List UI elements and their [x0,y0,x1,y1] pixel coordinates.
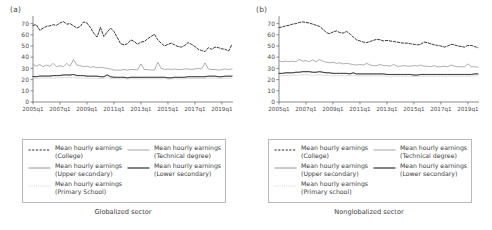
legend-label-line1: Mean hourly earnings [301,144,368,152]
legend-item-label: Mean hourly earnings(Primary school) [301,180,368,197]
legend-item: Mean hourly earnings(College) [274,144,374,161]
svg-text:50: 50 [21,42,29,49]
panel-a-label: (a) [10,5,21,14]
legend-item: Mean hourly earnings(Technical degree) [127,144,225,161]
panel-a-legend-right-column: Mean hourly earnings(Technical degree)Me… [127,144,225,180]
svg-text:2009q1: 2009q1 [76,106,98,113]
svg-text:20: 20 [21,76,29,83]
series-line [279,75,478,77]
legend-label-line2: (Upper secondary) [301,170,368,178]
svg-text:50: 50 [267,42,275,49]
legend-item: Mean hourly earnings(Primary school) [274,180,374,197]
svg-text:40: 40 [267,53,275,60]
panel-a-legend-left-column: Mean hourly earnings(College)Mean hourly… [28,144,128,198]
svg-text:70: 70 [267,20,275,27]
svg-text:40: 40 [21,53,29,60]
panel-b-legend-right-column: Mean hourly earnings(Technical degree)Me… [373,144,471,180]
svg-text:30: 30 [267,65,275,72]
panel-a-legend: Mean hourly earnings(College)Mean hourly… [22,139,226,203]
legend-item: Mean hourly earnings(Lower secondary) [127,162,225,179]
svg-text:10: 10 [267,87,275,94]
legend-label-line1: Mean hourly earnings [55,144,122,152]
panel-a-svg: 0102030405060702005q12007q12009q12011q12… [16,14,234,120]
legend-item: Mean hourly earnings(Lower secondary) [373,162,471,179]
legend-line-swatch-icon [274,181,297,197]
legend-line-swatch-icon [28,181,51,197]
legend-label-line2: (Lower secondary) [400,170,467,178]
legend-label-line1: Mean hourly earnings [55,180,122,188]
legend-item-label: Mean hourly earnings(College) [55,144,122,161]
svg-text:2009q1: 2009q1 [322,106,344,113]
panel-b-legend-left-column: Mean hourly earnings(College)Mean hourly… [274,144,374,198]
svg-text:70: 70 [21,20,29,27]
svg-text:2005q1: 2005q1 [268,106,290,113]
svg-text:60: 60 [267,31,275,38]
legend-label-line2: (Technical degree) [154,152,221,160]
legend-label-line1: Mean hourly earnings [301,180,368,188]
legend-line-swatch-icon [127,163,150,179]
legend-label-line1: Mean hourly earnings [55,162,122,170]
legend-line-swatch-icon [274,163,297,179]
legend-line-swatch-icon [373,163,396,179]
legend-item-label: Mean hourly earnings(Lower secondary) [154,162,221,179]
legend-item-label: Mean hourly earnings(Lower secondary) [400,162,467,179]
legend-line-swatch-icon [28,163,51,179]
legend-label-line2: (Technical degree) [400,152,467,160]
legend-label-line2: (Lower secondary) [154,170,221,178]
panel-b-caption: Nonglobalized sector [246,208,492,216]
panel-a-plot: 0102030405060702005q12007q12009q12011q12… [16,14,234,120]
legend-line-swatch-icon [127,145,150,161]
legend-item: Mean hourly earnings(College) [28,144,128,161]
svg-text:2019q1: 2019q1 [211,106,233,113]
legend-item-label: Mean hourly earnings(Primary School) [55,180,122,197]
svg-text:60: 60 [21,31,29,38]
svg-text:2013q1: 2013q1 [376,106,398,113]
svg-text:2015q1: 2015q1 [403,106,425,113]
series-line [33,59,232,70]
legend-label-line2: (College) [301,152,368,160]
panel-b-plot: 0102030405060702005q12007q12009q12011q12… [262,14,480,120]
svg-text:2015q1: 2015q1 [157,106,179,113]
panel-b-legend: Mean hourly earnings(College)Mean hourly… [268,139,472,203]
svg-text:2017q1: 2017q1 [184,106,206,113]
legend-item-label: Mean hourly earnings(Upper secondary) [55,162,122,179]
legend-label-line2: (Primary School) [55,188,122,196]
legend-line-swatch-icon [373,145,396,161]
svg-text:2007q1: 2007q1 [295,106,317,113]
legend-label-line1: Mean hourly earnings [154,144,221,152]
svg-text:2005q1: 2005q1 [22,106,44,113]
panel-b: (b) 0102030405060702005q12007q12009q1201… [246,0,492,230]
panel-b-svg: 0102030405060702005q12007q12009q12011q12… [262,14,480,120]
svg-text:10: 10 [21,87,29,94]
svg-text:2011q1: 2011q1 [349,106,371,113]
legend-item: Mean hourly earnings(Upper secondary) [274,162,374,179]
svg-text:30: 30 [21,65,29,72]
figure-container: (a) 0102030405060702005q12007q12009q1201… [0,0,492,230]
panel-a-caption: Globalized sector [0,208,246,216]
legend-line-swatch-icon [28,145,51,161]
svg-text:0: 0 [25,98,29,105]
legend-item-label: Mean hourly earnings(Technical degree) [154,144,221,161]
svg-text:2017q1: 2017q1 [430,106,452,113]
legend-item-label: Mean hourly earnings(College) [301,144,368,161]
svg-text:2019q1: 2019q1 [457,106,479,113]
svg-text:2007q1: 2007q1 [49,106,71,113]
series-line [279,59,478,67]
legend-item-label: Mean hourly earnings(Upper secondary) [301,162,368,179]
panel-a: (a) 0102030405060702005q12007q12009q1201… [0,0,246,230]
legend-label-line1: Mean hourly earnings [400,162,467,170]
svg-text:2011q1: 2011q1 [103,106,125,113]
legend-item: Mean hourly earnings(Technical degree) [373,144,471,161]
legend-label-line1: Mean hourly earnings [400,144,467,152]
legend-item: Mean hourly earnings(Primary School) [28,180,128,197]
svg-text:0: 0 [271,98,275,105]
legend-label-line1: Mean hourly earnings [301,162,368,170]
legend-label-line1: Mean hourly earnings [154,162,221,170]
legend-label-line2: (Primary school) [301,188,368,196]
series-line [33,22,232,52]
series-line [279,22,478,48]
svg-text:20: 20 [267,76,275,83]
legend-label-line2: (College) [55,152,122,160]
svg-text:2013q1: 2013q1 [130,106,152,113]
legend-line-swatch-icon [274,145,297,161]
